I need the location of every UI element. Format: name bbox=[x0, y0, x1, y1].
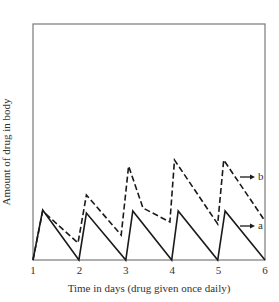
x-axis-label: Time in days (drug given once daily) bbox=[33, 282, 265, 294]
series-a-label: a bbox=[258, 219, 263, 231]
x-tick-1: 1 bbox=[30, 264, 36, 276]
x-tick-4: 4 bbox=[169, 264, 175, 276]
x-tick-2: 2 bbox=[77, 264, 83, 276]
x-tick-3: 3 bbox=[123, 264, 129, 276]
series-b-label: b bbox=[258, 170, 264, 182]
y-axis-label-text: Amount of drug in body bbox=[0, 99, 12, 206]
plot-frame bbox=[33, 24, 265, 260]
arrow-a-icon bbox=[240, 224, 255, 229]
x-tick-5: 5 bbox=[216, 264, 222, 276]
chart-canvas bbox=[0, 0, 279, 302]
arrow-b-icon bbox=[240, 175, 255, 180]
x-tick-6: 6 bbox=[262, 264, 268, 276]
series-a-line bbox=[33, 210, 265, 260]
